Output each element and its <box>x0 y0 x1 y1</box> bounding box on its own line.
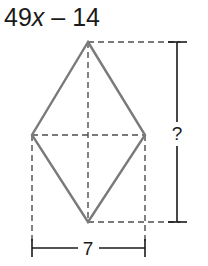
height-label: ? <box>172 123 183 144</box>
geometry-figure: 49x – 14 ? 7 <box>0 0 208 266</box>
width-label: 7 <box>83 238 94 259</box>
kite-diagram: ? 7 <box>0 0 208 266</box>
